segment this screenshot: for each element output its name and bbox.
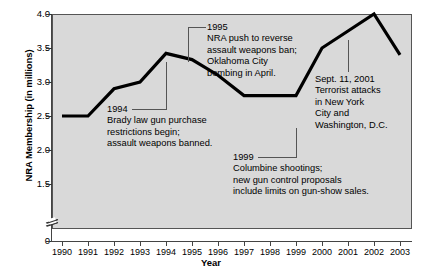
annotation-1994: 1994 Brady law gun purchase restrictions… [107, 104, 212, 150]
annotation-1995-line3: Oklahoma City [207, 56, 268, 66]
annotation-1999-year: 1999 [233, 152, 254, 163]
annotation-1999: 1999 Columbine shootings; new gun contro… [233, 152, 369, 198]
annotation-1995-line4: bombing in April. [207, 68, 276, 78]
annotation-1999-line1: Columbine shootings; [233, 163, 322, 173]
annotation-1994-year: 1994 [107, 104, 128, 115]
x-axis-line [51, 241, 412, 242]
annotation-1995-leader-vertical [188, 27, 189, 62]
annotation-1994-line2: restrictions begin; [107, 127, 180, 137]
annotation-1999-leader-horizontal [258, 157, 296, 158]
annotation-2001: Sept. 11, 2001 Terrorist attacks in New … [315, 74, 388, 131]
annotation-1994-leader-vertical [166, 62, 167, 110]
annotation-2001-line2: in New York [315, 97, 364, 107]
annotation-1994-line1: Brady law gun purchase [107, 115, 207, 125]
x-tick-mark-2002 [374, 241, 375, 246]
x-tick-mark-1996 [218, 241, 219, 246]
x-tick-label-2003: 2003 [383, 247, 417, 257]
y-axis-line-lower-segment [51, 229, 52, 241]
nra-membership-line-chart: NRA Membership (in millions) 4.0 3.5 3.0… [0, 0, 422, 275]
annotation-2001-line4: Washington, D.C. [315, 120, 388, 130]
annotation-1995-line1: NRA push to reverse [207, 33, 293, 43]
annotation-1995-leader-horizontal [188, 27, 206, 28]
annotation-2001-line1: Terrorist attacks [315, 85, 381, 95]
annotation-2001-leader-vertical [348, 40, 349, 72]
x-tick-mark-1990 [62, 241, 63, 246]
annotation-2001-line3: City and [315, 108, 349, 118]
annotation-1999-line3: include limits on gun-show sales. [233, 186, 369, 196]
annotation-1995-line2: assault weapons ban; [207, 45, 297, 55]
x-tick-mark-2000 [322, 241, 323, 246]
annotation-1994-line3: assault weapons banned. [107, 138, 212, 148]
annotation-1994-leader-horizontal [132, 109, 166, 110]
annotation-2001-year: Sept. 11, 2001 [315, 74, 375, 85]
annotation-1999-leader-vertical [296, 128, 297, 158]
x-tick-mark-1994 [166, 241, 167, 246]
y-axis-tick-labels: 4.0 3.5 3.0 2.5 2.0 1.5 0 [14, 0, 50, 275]
x-tick-mark-1991 [88, 241, 89, 246]
x-tick-mark-1997 [244, 241, 245, 246]
annotation-1995: 1995 NRA push to reverse assault weapons… [207, 22, 297, 79]
annotation-1995-year: 1995 [207, 22, 228, 33]
x-tick-mark-2003 [400, 241, 401, 246]
x-tick-mark-1998 [270, 241, 271, 246]
annotation-1999-line2: new gun control proposals [233, 175, 342, 185]
x-tick-mark-2001 [348, 241, 349, 246]
x-tick-mark-1995 [192, 241, 193, 246]
x-axis-title: Year [0, 257, 422, 268]
x-tick-mark-1993 [140, 241, 141, 246]
x-tick-mark-1992 [114, 241, 115, 246]
x-tick-mark-1999 [296, 241, 297, 246]
